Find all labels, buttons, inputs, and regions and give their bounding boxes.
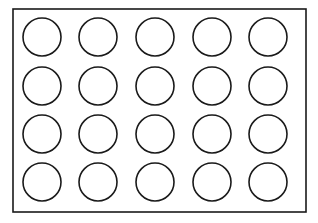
circle-r1-c5 (249, 18, 287, 56)
circle-r4-c1 (23, 163, 61, 201)
circle-r3-c5 (249, 115, 287, 153)
circle-r3-c1 (23, 115, 61, 153)
circle-r2-c5 (249, 67, 287, 105)
circle-r2-c2 (79, 67, 117, 105)
circle-r4-c2 (79, 163, 117, 201)
circle-grid-diagram (0, 0, 318, 223)
circle-r4-c3 (136, 163, 174, 201)
circle-r2-c4 (193, 67, 231, 105)
circle-r4-c5 (249, 163, 287, 201)
circle-r2-c3 (136, 67, 174, 105)
circle-r3-c4 (193, 115, 231, 153)
frame-border (13, 9, 306, 212)
circle-r1-c3 (136, 18, 174, 56)
circle-r3-c3 (136, 115, 174, 153)
circle-r3-c2 (79, 115, 117, 153)
circle-r1-c2 (79, 18, 117, 56)
circle-r4-c4 (193, 163, 231, 201)
circle-grid (23, 18, 287, 201)
circle-r1-c1 (23, 18, 61, 56)
circle-r2-c1 (23, 67, 61, 105)
circle-r1-c4 (193, 18, 231, 56)
